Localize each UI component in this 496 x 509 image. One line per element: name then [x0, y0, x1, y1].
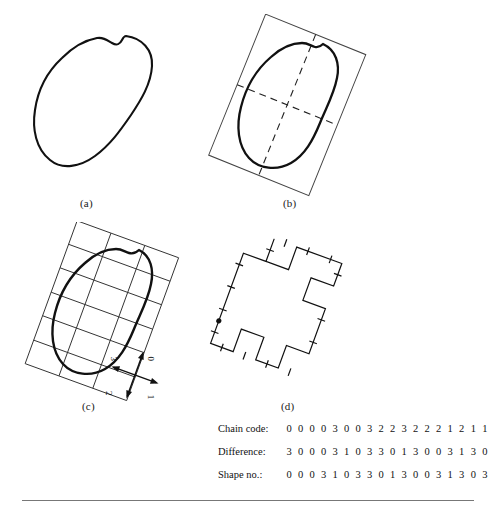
code-row-shape-number: Shape no.: 0 0 0 3 1 0 3 3 0 1 3 0 0 3 1… [218, 469, 490, 492]
page-divider-rule [22, 500, 474, 501]
digit: 0 [376, 469, 386, 480]
digit: 2 [457, 423, 467, 434]
start-point-marker [215, 318, 222, 325]
digit: 0 [319, 423, 329, 434]
shape-number-digits: 0 0 0 3 1 0 3 3 0 1 3 0 0 3 1 3 0 3 [280, 469, 490, 480]
digit: 1 [342, 446, 352, 457]
digit: 0 [284, 423, 294, 434]
arrow-up-icon [138, 350, 146, 360]
digit: 1 [457, 446, 467, 457]
digit: 0 [342, 423, 352, 434]
difference-digits: 3 0 0 0 3 1 0 3 3 0 1 3 0 0 3 1 3 0 [280, 446, 490, 457]
shape-number-label: Shape no.: [218, 469, 280, 480]
digit: 0 [480, 446, 490, 457]
digit: 2 [388, 423, 398, 434]
digit: 0 [296, 446, 306, 457]
digit: 0 [284, 469, 294, 480]
boundary-curve-b [238, 43, 338, 168]
chain-code-label: Chain code: [218, 423, 280, 434]
digit: 3 [319, 469, 329, 480]
direction-label-1: 1 [146, 395, 156, 400]
digit: 0 [319, 446, 329, 457]
chain-coded-polygon [211, 231, 342, 377]
digit: 0 [353, 446, 363, 457]
panel-b-graphic [195, 14, 385, 199]
digit: 3 [445, 446, 455, 457]
digit: 3 [468, 446, 478, 457]
digit: 0 [307, 423, 317, 434]
digit: 0 [388, 446, 398, 457]
digit: 1 [480, 423, 490, 434]
panel-label-a: (a) [80, 197, 93, 209]
panel-label-c: (c) [82, 400, 95, 412]
digit: 3 [353, 469, 363, 480]
digit: 3 [365, 469, 375, 480]
panel-label-d: (d) [281, 400, 294, 412]
digit: 3 [330, 423, 340, 434]
digit: 0 [353, 423, 363, 434]
digit: 0 [434, 446, 444, 457]
digit: 1 [445, 469, 455, 480]
direction-label-3: 3 [109, 357, 119, 362]
digit: 1 [468, 423, 478, 434]
digit: 1 [388, 469, 398, 480]
digit: 0 [307, 446, 317, 457]
digit: 0 [422, 446, 432, 457]
digit: 3 [330, 446, 340, 457]
digit: 0 [422, 469, 432, 480]
difference-label: Difference: [218, 446, 280, 457]
chain-code-digits: 0 0 0 0 3 0 0 3 2 2 3 2 2 2 1 2 1 1 [280, 423, 490, 434]
figure-root: (a) (b) [0, 0, 496, 509]
digit: 3 [457, 469, 467, 480]
digit: 0 [411, 469, 421, 480]
digit: 3 [399, 469, 409, 480]
direction-label-2: 2 [104, 391, 114, 396]
digit: 2 [434, 423, 444, 434]
panel-label-b: (b) [283, 197, 296, 209]
digit: 3 [411, 446, 421, 457]
digit: 3 [365, 423, 375, 434]
digit: 3 [399, 423, 409, 434]
digit: 3 [365, 446, 375, 457]
digit: 3 [434, 469, 444, 480]
code-row-difference: Difference: 3 0 0 0 3 1 0 3 3 0 1 3 0 0 … [218, 446, 490, 469]
arrow-left-icon [110, 364, 120, 372]
grid-tick-marks [205, 226, 347, 381]
digit: 0 [342, 469, 352, 480]
code-row-chain-code: Chain code: 0 0 0 0 3 0 0 3 2 2 3 2 2 2 … [218, 423, 490, 446]
panel-a-graphic [10, 14, 190, 194]
digit: 2 [411, 423, 421, 434]
digit: 0 [307, 469, 317, 480]
digit: 1 [445, 423, 455, 434]
digit: 2 [376, 423, 386, 434]
digit: 0 [468, 469, 478, 480]
arrow-down-icon [124, 390, 132, 400]
digit: 3 [284, 446, 294, 457]
arrow-right-icon [150, 378, 160, 386]
digit: 2 [422, 423, 432, 434]
digit: 1 [330, 469, 340, 480]
digit: 3 [376, 446, 386, 457]
panel-d-graphic [198, 226, 378, 401]
boundary-curve-a [34, 36, 152, 166]
direction-label-0: 0 [146, 356, 156, 361]
digit: 0 [296, 423, 306, 434]
direction-key-c: 0 1 2 3 [104, 344, 166, 406]
digit: 0 [296, 469, 306, 480]
axis-horizontal [113, 367, 156, 383]
code-table: Chain code: 0 0 0 0 3 0 0 3 2 2 3 2 2 2 … [218, 423, 490, 492]
digit: 3 [480, 469, 490, 480]
digit: 1 [399, 446, 409, 457]
